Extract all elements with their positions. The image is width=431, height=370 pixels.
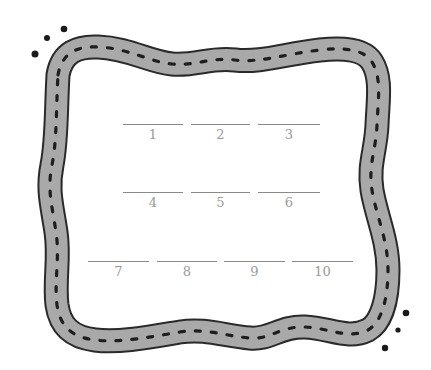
blank-4[interactable]: 4 [123,192,183,193]
blank-2[interactable]: 2 [191,124,250,125]
blank-label: 8 [157,265,217,279]
blank-label: 1 [123,128,183,142]
frame-band [50,47,388,341]
blank-label: 4 [123,196,183,210]
blank-label: 9 [224,265,285,279]
blank-7[interactable]: 7 [88,261,149,262]
frame-outline [50,47,388,341]
blank-label: 10 [292,265,353,279]
blank-6[interactable]: 6 [258,192,320,193]
blank-10[interactable]: 10 [292,261,353,262]
blank-label: 2 [191,128,250,142]
blank-9[interactable]: 9 [224,261,285,262]
blank-label: 3 [258,128,320,142]
wavy-frame-icon [0,0,431,370]
frame-dashes [50,47,388,341]
blank-label: 5 [191,196,250,210]
blank-8[interactable]: 8 [157,261,217,262]
blank-5[interactable]: 5 [191,192,250,193]
blank-label: 6 [258,196,320,210]
blank-1[interactable]: 1 [123,124,183,125]
blank-3[interactable]: 3 [258,124,320,125]
blank-label: 7 [88,265,149,279]
